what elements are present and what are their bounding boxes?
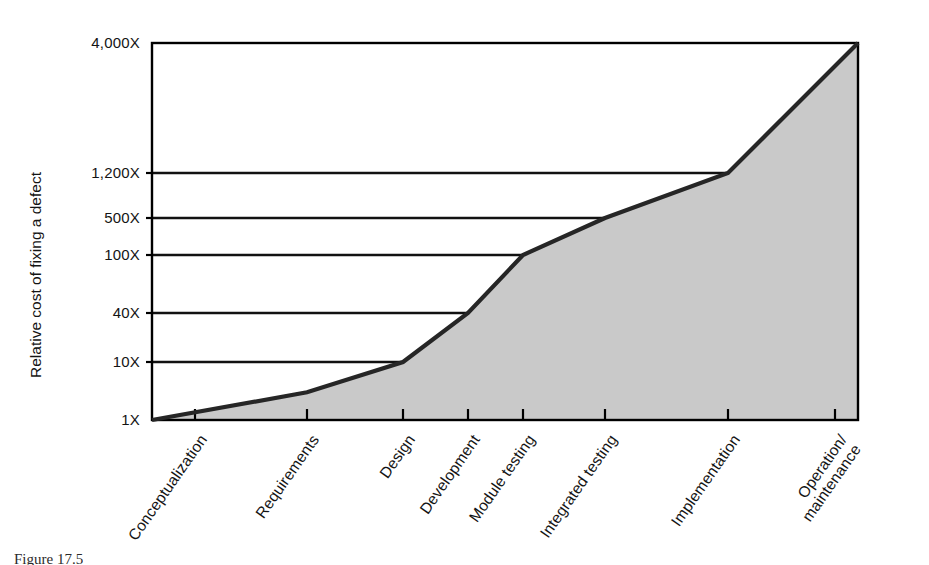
figure-caption: Figure 17.5 [14,551,83,565]
y-tick-label: 500X [104,209,140,226]
y-tick-label: 4,000X [91,34,140,51]
y-tick-label: 1,200X [91,164,140,181]
y-axis-title: Relative cost of fixing a defect [27,171,44,378]
y-tick-label: 1X [121,411,140,428]
y-tick-label: 40X [113,304,140,321]
y-tick-label: 100X [104,246,140,263]
y-tick-label: 10X [113,353,140,370]
